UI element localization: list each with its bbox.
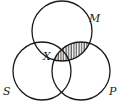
venn-diagram: M X S P: [0, 0, 122, 106]
circle-s: [13, 42, 71, 100]
label-p: P: [108, 85, 117, 98]
venn-svg: M X S P: [0, 0, 122, 106]
label-m: M: [88, 12, 101, 25]
label-s: S: [3, 85, 11, 98]
label-x-mark: X: [42, 50, 52, 63]
